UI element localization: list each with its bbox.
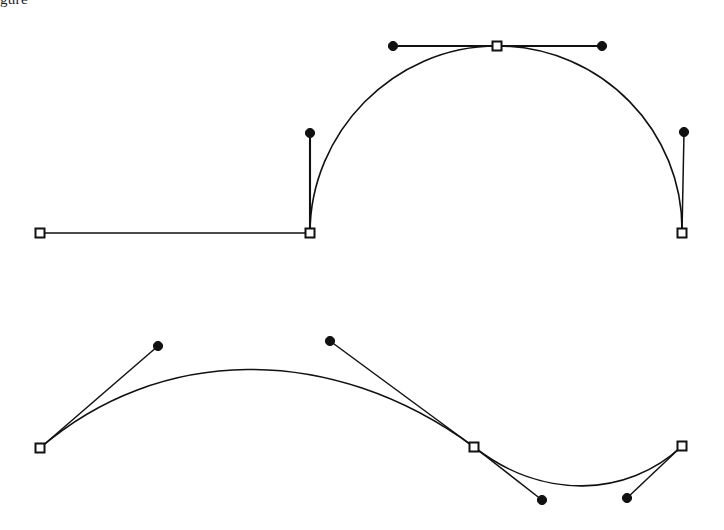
- anchor-upper-right-end[interactable]: [678, 229, 687, 238]
- bezier-figure-canvas: [0, 0, 724, 530]
- control-lower-middle-out-handle: [474, 447, 542, 500]
- curve-layer: [40, 46, 682, 486]
- lower-path-curve: [40, 369, 682, 485]
- handle-layer: [40, 46, 684, 500]
- figure-root: gure: [0, 0, 724, 530]
- upper-path-curve: [40, 46, 682, 233]
- control-upper-right-in[interactable]: [679, 127, 688, 136]
- control-lower-middle-out[interactable]: [537, 495, 546, 504]
- control-lower-right-in[interactable]: [622, 493, 631, 502]
- control-lower-middle-in-handle: [330, 341, 474, 447]
- anchor-upper-corner[interactable]: [306, 229, 315, 238]
- control-lower-middle-in[interactable]: [325, 336, 334, 345]
- control-upper-apex-out[interactable]: [597, 41, 606, 50]
- control-upper-corner-out[interactable]: [305, 128, 314, 137]
- control-upper-apex-in[interactable]: [388, 41, 397, 50]
- control-lower-left-out[interactable]: [153, 341, 162, 350]
- control-upper-right-in-handle: [682, 132, 684, 233]
- anchor-lower-left-end[interactable]: [36, 444, 45, 453]
- control-point-layer: [36, 41, 689, 504]
- anchor-lower-middle[interactable]: [470, 443, 479, 452]
- control-lower-right-in-handle: [627, 446, 682, 498]
- anchor-upper-left-end[interactable]: [36, 229, 45, 238]
- anchor-upper-apex[interactable]: [493, 42, 502, 51]
- control-lower-left-out-handle: [40, 346, 158, 448]
- anchor-lower-right-end[interactable]: [678, 442, 687, 451]
